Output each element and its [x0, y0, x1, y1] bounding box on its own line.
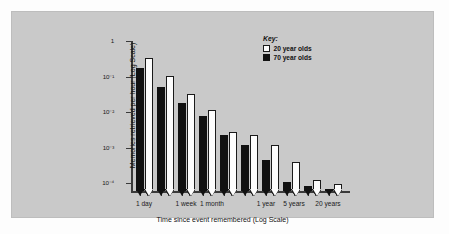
- legend-label-20-year-olds: 20 year olds: [274, 45, 312, 52]
- bar-tip: [292, 189, 300, 196]
- y-tick-label-3: 10⁻²: [103, 108, 114, 115]
- bar-70yo-4: [199, 116, 207, 191]
- bar-tip: [334, 189, 342, 196]
- bar-tip: [304, 189, 312, 196]
- bar-70yo-9: [304, 186, 312, 191]
- legend-item-70-year-olds: 70 year olds: [263, 54, 312, 61]
- bar-tip: [199, 189, 207, 196]
- bar-tip: [145, 189, 153, 196]
- bar-70yo-2: [157, 87, 165, 191]
- x-label-1-month: 1 month: [190, 200, 234, 207]
- y-tick-label-1: 1: [111, 37, 114, 44]
- bar-20yo-9: [313, 180, 321, 191]
- y-tick-label-5: 10⁻⁴: [102, 179, 114, 186]
- bar-tip: [220, 189, 228, 196]
- chart-panel: 1 10⁻¹ 10⁻² 10⁻³ 10⁻⁴: [11, 11, 434, 218]
- bar-20yo-3: [187, 94, 195, 191]
- bar-tip: [271, 189, 279, 196]
- figure-page: 1 10⁻¹ 10⁻² 10⁻³ 10⁻⁴: [0, 0, 449, 234]
- legend-swatch-black: [263, 54, 270, 61]
- bar-tip: [157, 189, 165, 196]
- bar-tip: [325, 189, 333, 196]
- bar-tip: [166, 189, 174, 196]
- bar-tip: [229, 189, 237, 196]
- bar-tip: [262, 189, 270, 196]
- bar-20yo-10: [334, 184, 342, 191]
- legend-swatch-white: [263, 45, 270, 52]
- legend-title: Key:: [263, 35, 312, 42]
- bar-20yo-7: [271, 145, 279, 191]
- bar-70yo-5: [220, 135, 228, 191]
- y-tick-label-4: 10⁻³: [103, 144, 114, 151]
- bar-tip: [178, 189, 186, 196]
- bar-20yo-8: [292, 162, 300, 191]
- bar-70yo-3: [178, 103, 186, 191]
- bar-tip: [283, 189, 291, 196]
- y-tick-label-2: 10⁻¹: [103, 73, 114, 80]
- bar-20yo-2: [166, 76, 174, 191]
- bar-20yo-5: [229, 132, 237, 191]
- x-label-1-day: 1 day: [126, 200, 162, 207]
- bar-20yo-1: [145, 58, 153, 191]
- bar-70yo-7: [262, 160, 270, 191]
- y-tick-5: [126, 183, 132, 184]
- x-axis-title: Time since event remembered (Log Scale): [11, 216, 434, 223]
- legend-label-70-year-olds: 70 year olds: [274, 54, 312, 61]
- bar-70yo-10: [325, 189, 333, 191]
- plot-area: 1 10⁻¹ 10⁻² 10⁻³ 10⁻⁴: [120, 30, 350, 194]
- x-label-20-years: 20 years: [305, 200, 351, 207]
- bar-70yo-1: [136, 68, 144, 191]
- legend: Key: 20 year olds 70 year olds: [263, 35, 312, 63]
- bar-70yo-6: [241, 145, 249, 191]
- bar-70yo-8: [283, 182, 291, 191]
- bar-20yo-6: [250, 135, 258, 191]
- bar-tip: [208, 189, 216, 196]
- bar-tip: [313, 189, 321, 196]
- bar-tip: [241, 189, 249, 196]
- bar-20yo-4: [208, 110, 216, 191]
- bar-tip: [250, 189, 258, 196]
- y-axis-title: Memories retrieved per hour (Log Scale): [129, 32, 136, 180]
- legend-item-20-year-olds: 20 year olds: [263, 45, 312, 52]
- bar-tip: [136, 189, 144, 196]
- bar-tip: [187, 189, 195, 196]
